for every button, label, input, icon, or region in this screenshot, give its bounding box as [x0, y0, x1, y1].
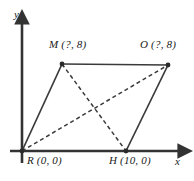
diagonal-M-H [62, 64, 126, 151]
x-axis-label: x [175, 155, 180, 167]
vertex-label-H: H (10, 0) [109, 154, 151, 166]
vertex-O [166, 63, 171, 68]
vertex-H [124, 149, 129, 154]
geometry-figure: M (?, 8) O (?, 8) R (0, 0) H (10, 0) y x [0, 0, 194, 181]
vertex-label-O: O (?, 8) [140, 38, 176, 50]
vertex-R [20, 149, 25, 154]
edge-H-O [126, 65, 168, 151]
vertex-label-M: M (?, 8) [49, 38, 86, 50]
vertex-M [60, 62, 65, 67]
vertex-label-R: R (0, 0) [27, 154, 62, 166]
y-axis-label: y [14, 8, 19, 20]
edge-R-M [22, 64, 62, 151]
edge-M-O [62, 64, 168, 65]
